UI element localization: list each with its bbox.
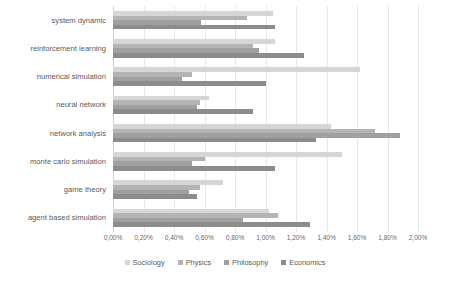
legend-label: Economics bbox=[289, 258, 325, 267]
bar-group bbox=[113, 124, 418, 142]
legend-swatch-icon bbox=[178, 260, 183, 265]
legend-label: Philosophy bbox=[232, 258, 268, 267]
bar bbox=[113, 53, 304, 58]
bar bbox=[113, 25, 275, 30]
value-tick-label: 1,20% bbox=[287, 234, 306, 241]
category-axis-labels: system dynamicreinforcement learningnume… bbox=[0, 6, 110, 232]
legend-swatch-icon bbox=[281, 260, 286, 265]
bar-group bbox=[113, 67, 418, 85]
legend-item[interactable]: Sociology bbox=[125, 258, 165, 267]
value-tick-label: 0,80% bbox=[226, 234, 245, 241]
value-tick-label: 1,80% bbox=[378, 234, 397, 241]
plot-wrapper: system dynamicreinforcement learningnume… bbox=[0, 6, 450, 232]
value-tick-label: 0,40% bbox=[165, 234, 184, 241]
category-label: game theory bbox=[0, 185, 106, 194]
bar bbox=[113, 194, 197, 199]
legend-swatch-icon bbox=[125, 260, 130, 265]
value-tick-label: 0,60% bbox=[195, 234, 214, 241]
legend-item[interactable]: Economics bbox=[281, 258, 325, 267]
grouped-bar-chart: system dynamicreinforcement learningnume… bbox=[0, 0, 450, 281]
value-tick-label: 0,00% bbox=[104, 234, 123, 241]
bar bbox=[113, 109, 253, 114]
plot-area bbox=[113, 6, 418, 232]
value-tick-label: 1,00% bbox=[256, 234, 275, 241]
legend-label: Sociology bbox=[133, 258, 165, 267]
value-tick-label: 1,40% bbox=[317, 234, 336, 241]
category-label: network analysis bbox=[0, 129, 106, 138]
legend-swatch-icon bbox=[224, 260, 229, 265]
bar bbox=[113, 81, 266, 86]
value-tick-label: 1,60% bbox=[348, 234, 367, 241]
legend-label: Physics bbox=[186, 258, 211, 267]
bar-group bbox=[113, 152, 418, 170]
category-label: reinforcement learning bbox=[0, 44, 106, 53]
legend-item[interactable]: Philosophy bbox=[224, 258, 268, 267]
gridline-10 bbox=[418, 6, 419, 232]
chart-legend: SociologyPhysicsPhilosophyEconomics bbox=[0, 258, 450, 267]
category-label: neural network bbox=[0, 100, 106, 109]
bar bbox=[113, 222, 310, 227]
value-tick-label: 2,00% bbox=[409, 234, 428, 241]
value-tick-label: 0,20% bbox=[134, 234, 153, 241]
category-label: monte carlo simulation bbox=[0, 157, 106, 166]
category-label: agent based simulation bbox=[0, 213, 106, 222]
category-label: numerical simulation bbox=[0, 72, 106, 81]
bar-group bbox=[113, 11, 418, 29]
bar-group bbox=[113, 209, 418, 227]
bar-group bbox=[113, 39, 418, 57]
bar bbox=[113, 138, 316, 143]
bar-group bbox=[113, 96, 418, 114]
bar-group bbox=[113, 180, 418, 198]
category-label: system dynamic bbox=[0, 16, 106, 25]
bar bbox=[113, 166, 275, 171]
legend-item[interactable]: Physics bbox=[178, 258, 211, 267]
value-axis-ticks: 0,00%0,20%0,40%0,60%0,80%1,00%1,20%1,40%… bbox=[113, 234, 418, 248]
